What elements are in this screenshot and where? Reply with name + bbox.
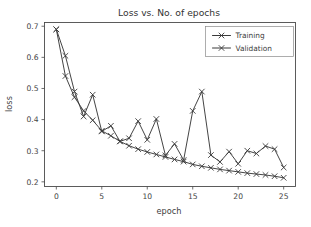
legend-label-validation: Validation: [236, 44, 273, 53]
chart-legend: TrainingValidation: [206, 27, 294, 57]
data-point-marker: [272, 147, 277, 152]
legend-label-training: Training: [235, 31, 265, 40]
data-point-marker: [227, 149, 232, 154]
chart-figure: Loss vs. No. of epochs 0510152025 0.20.3…: [0, 0, 311, 227]
y-axis-ticks: 0.20.30.40.50.60.7: [26, 22, 44, 187]
x-tick-label: 25: [279, 192, 289, 201]
x-tick-label: 15: [188, 192, 198, 201]
page-title: Loss vs. No. of epochs: [118, 7, 220, 18]
chart-title-group: Loss vs. No. of epochs: [118, 7, 220, 18]
data-point-marker: [108, 123, 113, 128]
data-point-marker: [136, 119, 141, 124]
y-tick-label: 0.6: [26, 53, 38, 62]
data-point-marker: [117, 139, 122, 144]
data-point-marker: [281, 165, 286, 170]
x-axis-label: epoch: [157, 206, 182, 216]
x-tick-label: 20: [233, 192, 243, 201]
y-tick-label: 0.3: [26, 147, 38, 156]
x-tick-label: 0: [54, 192, 59, 201]
data-point-marker: [90, 118, 95, 123]
loss-vs-epochs-chart: Loss vs. No. of epochs 0510152025 0.20.3…: [0, 0, 311, 227]
x-tick-label: 5: [99, 192, 104, 201]
data-point-marker: [127, 136, 132, 141]
y-tick-label: 0.4: [26, 115, 38, 124]
y-tick-label: 0.5: [26, 84, 38, 93]
data-point-marker: [108, 133, 113, 138]
data-point-marker: [145, 137, 150, 142]
data-point-marker: [236, 161, 241, 166]
data-point-marker: [245, 148, 250, 153]
data-point-marker: [254, 151, 259, 156]
data-point-marker: [218, 159, 223, 164]
data-point-marker: [81, 114, 86, 119]
y-tick-label: 0.2: [26, 178, 38, 187]
x-tick-label: 10: [142, 192, 152, 201]
data-point-marker: [263, 144, 268, 149]
data-point-marker: [172, 141, 177, 146]
y-axis-label: loss: [4, 96, 14, 112]
y-tick-label: 0.7: [26, 22, 38, 31]
x-axis-ticks: 0510152025: [54, 187, 289, 202]
data-point-marker: [127, 143, 132, 148]
data-point-marker: [136, 147, 141, 152]
